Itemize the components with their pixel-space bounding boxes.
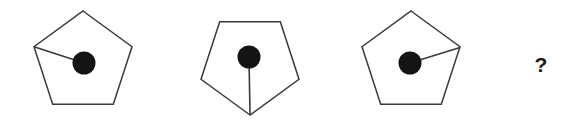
center-dot-3 <box>399 52 422 75</box>
answer-placeholder-question-mark: ? <box>528 50 554 80</box>
puzzle-canvas: ? <box>0 0 579 139</box>
center-dot-1 <box>73 52 96 75</box>
pentagon-panel-3 <box>362 11 460 104</box>
center-dot-2 <box>238 46 261 69</box>
pentagon-sequence-graphic <box>0 0 579 139</box>
pentagon-panel-1 <box>34 11 132 104</box>
pentagon-panel-2 <box>201 22 299 115</box>
